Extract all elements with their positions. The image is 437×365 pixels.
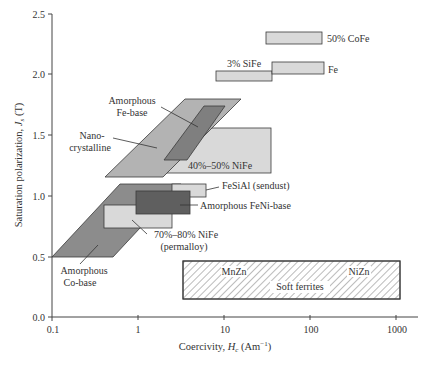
label-fe: Fe [328,64,339,75]
y-tick-label: 0.0 [33,312,46,323]
label-amorphous-co-base: Amorphous [60,265,107,276]
label-nanocrystalline: Nano- [80,130,105,141]
label-cofe: 50% CoFe [327,33,370,44]
label-permalloy: 70%–80% NiFe [154,229,219,240]
region-cofe: 50% CoFe [266,32,370,44]
label-amorphous-fe-base: Amorphous [108,95,155,106]
label-soft-ferrites: Soft ferrites [276,281,324,292]
label-amorphous-co-base: Co-base [64,277,97,288]
region-fe: Fe [272,62,339,75]
x-tick-label: 0.1 [47,324,60,335]
label-fesial: FeSiAl (sendust) [222,180,290,192]
label-nizn: NiZn [348,266,369,277]
label-mnzn: MnZn [222,266,247,277]
label-nife-40-50: 40%–50% NiFe [188,160,253,171]
chart: 2.5 2.0 1.5 1.0 0.5 0.0 Saturation polar… [0,0,437,365]
y-tick-label: 1.0 [33,191,46,202]
y-tick-label: 2.5 [33,9,46,20]
label-sife: 3% SiFe [227,58,262,69]
region-amorphous-feni-base [136,191,190,214]
label-amorphous-feni-base: Amorphous FeNi-base [200,200,291,211]
label-nanocrystalline: crystalline [69,142,111,153]
region-soft-ferrites: MnZn NiZn Soft ferrites [183,261,400,299]
region-sife: 3% SiFe [216,58,272,81]
y-axis-title: Saturation polarization, Js (T) [13,102,26,227]
y-tick-label: 1.5 [33,130,46,141]
x-tick-label: 1 [136,324,141,335]
label-permalloy: (permalloy) [160,241,207,253]
label-amorphous-fe-base: Fe-base [116,107,148,118]
x-tick-label: 1000 [387,324,407,335]
y-tick-label: 2.0 [33,69,46,80]
x-axis: 0.1 1 10 100 1000 Coercivity, Hc (Am−1) [47,315,418,354]
x-tick-label: 10 [220,324,230,335]
y-axis: 2.5 2.0 1.5 1.0 0.5 0.0 Saturation polar… [13,9,52,323]
x-tick-label: 100 [304,324,319,335]
y-tick-label: 0.5 [33,252,46,263]
x-axis-title: Coercivity, Hc (Am−1) [179,340,272,354]
